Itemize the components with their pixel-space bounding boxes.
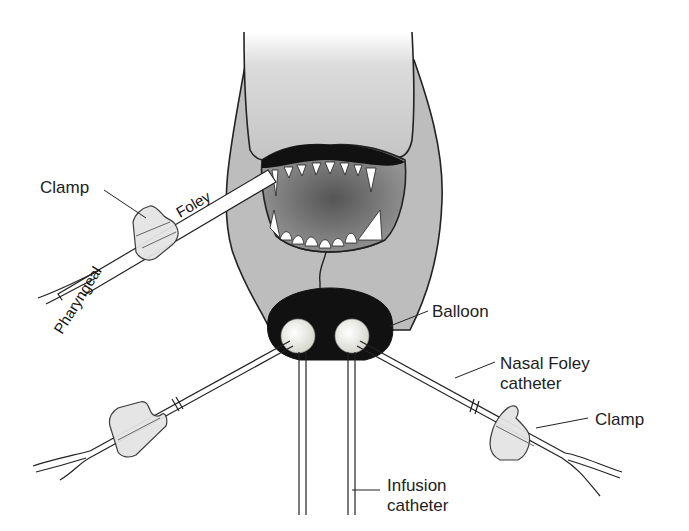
label-clamp-top-left: Clamp (40, 178, 89, 197)
nasal-foley-left (33, 341, 293, 480)
diagram-canvas: Foley Pharyngeal Clamp Balloon Nasal Fol… (0, 0, 689, 531)
label-infusion-line2: catheter (387, 496, 448, 515)
label-nasal-foley-line1: Nasal Foley (500, 354, 590, 373)
label-pharyngeal: Pharyngeal (50, 263, 105, 336)
infusion-catheters (299, 352, 355, 515)
balloon-left (281, 319, 315, 353)
label-nasal-foley-line2: catheter (500, 374, 561, 393)
balloon-right (335, 319, 369, 353)
label-balloon: Balloon (432, 302, 489, 321)
muzzle-top (244, 32, 414, 160)
label-infusion-line1: Infusion (387, 476, 447, 495)
dog-head-illustration: Foley Pharyngeal (0, 0, 689, 531)
label-clamp-right: Clamp (595, 410, 644, 429)
